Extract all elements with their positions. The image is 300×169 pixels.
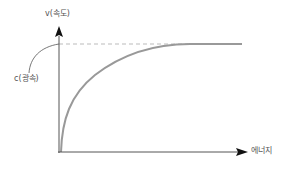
asymptote-leader-line [29, 44, 59, 73]
y-axis-label: v(속도) [45, 10, 70, 18]
velocity-curve [61, 44, 242, 152]
x-axis-label: 에너지 [251, 147, 272, 155]
y-axis-arrow-icon [55, 26, 63, 37]
velocity-energy-diagram [0, 0, 300, 169]
asymptote-label: c(광속) [14, 75, 39, 83]
